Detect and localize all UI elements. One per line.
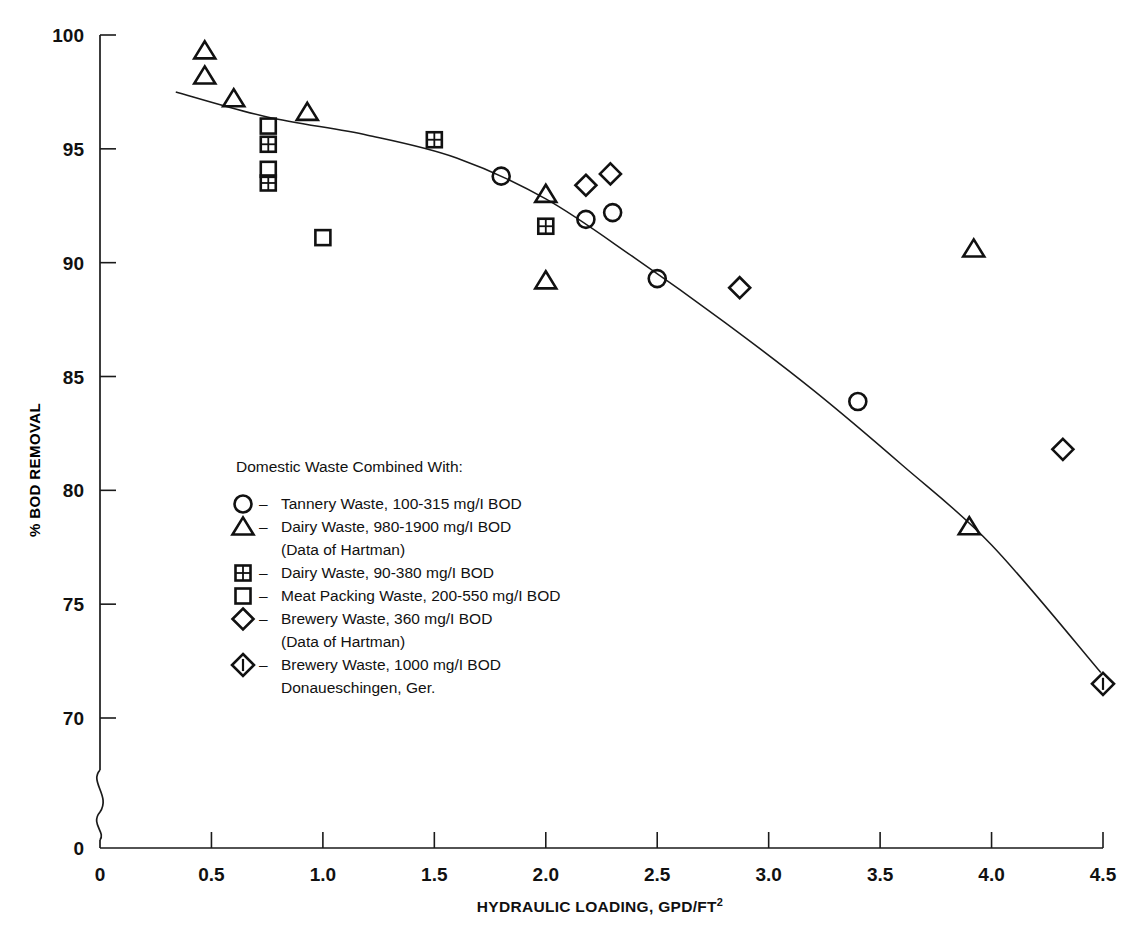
x-axis-title-text: HYDRAULIC LOADING, GPD/FT2: [477, 896, 723, 915]
legend: Domestic Waste Combined With: –Tannery W…: [232, 458, 560, 696]
diamond-marker: [575, 175, 596, 196]
x-tick-label: 4.5: [1090, 864, 1117, 885]
data-point-triangle: [194, 66, 215, 83]
legend-item-label: Dairy Waste, 980-1900 mg/I BOD: [281, 518, 511, 535]
data-point-diamond: [729, 277, 750, 298]
x-tick-label: 0.5: [198, 864, 225, 885]
y-tick-label: 100: [52, 25, 84, 46]
legend-dash: –: [259, 656, 268, 673]
square-marker: [315, 230, 330, 245]
circle-marker: [849, 393, 866, 410]
x-tick-label: 3.0: [755, 864, 781, 885]
trend-curve: [176, 92, 1101, 673]
legend-dash: –: [259, 518, 268, 535]
data-point-square: [315, 230, 330, 245]
legend-item-4[interactable]: –Brewery Waste, 360 mg/I BOD(Data of Har…: [233, 609, 493, 651]
y-tick-label: 90: [63, 253, 84, 274]
x-tick-label: 1.0: [310, 864, 336, 885]
data-point-crossed-square: [236, 566, 251, 581]
legend-item-label: Tannery Waste, 100-315 mg/I BOD: [281, 495, 522, 512]
legend-item-0[interactable]: –Tannery Waste, 100-315 mg/I BOD: [235, 495, 522, 513]
legend-item-5[interactable]: –Brewery Waste, 1000 mg/I BODDonaueschin…: [232, 654, 501, 696]
x-tick-label: 0: [95, 864, 106, 885]
data-point-circle: [604, 204, 621, 221]
y-tick-label: 70: [63, 708, 84, 729]
data-point-triangle: [535, 271, 556, 288]
triangle-marker: [535, 271, 556, 288]
x-tick-label: 2.5: [644, 864, 671, 885]
legend-dash: –: [259, 495, 268, 512]
y-tick-labels: 7075808590951000: [52, 25, 84, 859]
triangle-marker: [233, 517, 254, 534]
x-tick-label: 4.0: [978, 864, 1004, 885]
legend-item-sublabel: Donaueschingen, Ger.: [281, 679, 435, 696]
data-point-triangle: [963, 239, 984, 256]
series-2: [261, 132, 553, 234]
trend-line-path: [176, 92, 1101, 673]
x-tick-label: 1.5: [421, 864, 448, 885]
data-point-circle: [849, 393, 866, 410]
legend-item-2[interactable]: –Dairy Waste, 90-380 mg/I BOD: [236, 564, 495, 581]
data-point-circle: [235, 496, 252, 513]
legend-entries: –Tannery Waste, 100-315 mg/I BOD–Dairy W…: [232, 495, 560, 696]
x-axis-title-main: HYDRAULIC LOADING, GPD/FT: [477, 898, 717, 915]
data-point-square: [236, 589, 251, 604]
data-point-dotted-diamond: [232, 654, 254, 676]
square-marker: [261, 119, 276, 134]
legend-item-label: Brewery Waste, 1000 mg/I BOD: [281, 656, 501, 673]
triangle-marker: [223, 89, 244, 106]
y-origin-label: 0: [73, 838, 84, 859]
data-point-triangle: [959, 517, 980, 534]
chart-figure: % BOD REMOVAL 00.51.01.52.02.53.03.54.04…: [0, 0, 1145, 929]
data-point-triangle: [194, 41, 215, 58]
triangle-marker: [194, 66, 215, 83]
data-point-crossed-square: [261, 137, 276, 152]
square-marker: [236, 589, 251, 604]
data-point-diamond: [575, 175, 596, 196]
data-point-triangle: [297, 103, 318, 120]
legend-heading: Domestic Waste Combined With:: [236, 458, 463, 475]
x-axis-title-superscript: 2: [717, 896, 723, 908]
data-point-triangle: [233, 517, 254, 534]
axis-ticks: [100, 149, 992, 848]
diamond-marker: [233, 609, 254, 630]
x-tick-labels: 00.51.01.52.02.53.03.54.04.5: [95, 864, 1117, 885]
data-point-crossed-square: [538, 219, 553, 234]
legend-item-label: Brewery Waste, 360 mg/I BOD: [281, 610, 492, 627]
triangle-marker: [959, 517, 980, 534]
x-tick-label: 3.5: [867, 864, 894, 885]
legend-item-3[interactable]: –Meat Packing Waste, 200-550 mg/I BOD: [236, 587, 561, 604]
legend-item-label: Dairy Waste, 90-380 mg/I BOD: [281, 564, 494, 581]
bod-removal-scatter-chart: % BOD REMOVAL 00.51.01.52.02.53.03.54.04…: [0, 0, 1145, 929]
data-point-crossed-square: [427, 132, 442, 147]
x-tick-label: 2.0: [533, 864, 559, 885]
circle-marker: [604, 204, 621, 221]
legend-dash: –: [259, 564, 268, 581]
series-4: [575, 163, 1073, 459]
legend-item-1[interactable]: –Dairy Waste, 980-1900 mg/I BOD(Data of …: [233, 517, 512, 558]
legend-dash: –: [259, 610, 268, 627]
axes: [97, 35, 1103, 848]
x-axis-title: HYDRAULIC LOADING, GPD/FT2: [477, 896, 723, 915]
data-point-triangle: [223, 89, 244, 106]
circle-marker: [235, 496, 252, 513]
diamond-marker: [1052, 439, 1073, 460]
data-point-diamond: [1052, 439, 1073, 460]
y-axis-title-text: % BOD REMOVAL: [26, 403, 43, 537]
y-tick-label: 85: [63, 367, 85, 388]
diamond-marker: [729, 277, 750, 298]
y-tick-label: 95: [63, 139, 85, 160]
y-tick-label: 80: [63, 480, 84, 501]
triangle-marker: [194, 41, 215, 58]
legend-dash: –: [259, 587, 268, 604]
y-axis-title: % BOD REMOVAL: [26, 403, 43, 537]
legend-item-sublabel: (Data of Hartman): [281, 633, 405, 650]
data-point-diamond: [600, 163, 621, 184]
series-5: [1092, 673, 1114, 695]
triangle-marker: [963, 239, 984, 256]
triangle-marker: [297, 103, 318, 120]
y-tick-label: 75: [63, 594, 85, 615]
data-point-diamond: [233, 609, 254, 630]
data-point-dotted-diamond: [1092, 673, 1114, 695]
diamond-marker: [600, 163, 621, 184]
